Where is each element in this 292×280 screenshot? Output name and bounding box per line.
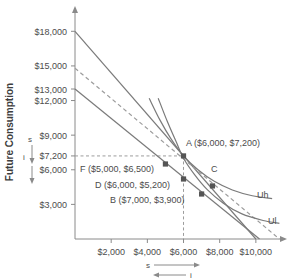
chart-canvas: Future Consumption $18,000$15,000$13,000… — [0, 0, 292, 280]
x-tick-label-2000: $2,000 — [97, 247, 125, 257]
marker-point-c — [210, 183, 215, 188]
marker-point-b — [199, 191, 204, 196]
x-tick-label-8000: $8,000 — [206, 247, 234, 257]
y-tick-label-18000: $18,000 — [34, 27, 67, 37]
y-axis-title: Future Consumption — [4, 83, 15, 181]
label-point-d: D ($6,000, $5,200) — [95, 180, 170, 190]
y-tick-label-3000: $3,000 — [39, 200, 67, 210]
x-axis-save-label: s — [146, 261, 150, 270]
consumption-savings-chart: Future Consumption $18,000$15,000$13,000… — [0, 0, 292, 280]
y-axis-save-label: s — [28, 135, 32, 144]
label-point-f: F ($5,000, $6,500) — [80, 164, 154, 174]
marker-point-a — [181, 153, 186, 158]
marker-point-d — [181, 176, 186, 181]
x-tick-label-6000: $6,000 — [170, 247, 198, 257]
label-point-a: A ($6,000, $7,200) — [186, 138, 260, 148]
y-tick-label-12000: $12,000 — [34, 96, 67, 106]
y-tick-label-15000: $15,000 — [34, 61, 67, 71]
y-axis-invest-label: i — [23, 153, 25, 162]
y-tick-label-9000: $9,000 — [39, 131, 67, 141]
label-point-b: B ($7,000, $3,900) — [110, 195, 185, 205]
x-tick-label-4000: $4,000 — [134, 247, 162, 257]
label-point-c: C — [211, 164, 218, 174]
marker-point-f — [163, 161, 168, 166]
x-axis-invest-label: i — [190, 271, 192, 280]
curve-label-ul: Ul — [268, 216, 277, 226]
y-tick-label-7200: $7,200 — [39, 151, 67, 161]
y-tick-label-6000: $6,000 — [39, 165, 67, 175]
y-tick-label-13000: $13,000 — [34, 85, 67, 95]
x-tick-label-10000: $10,000 — [240, 247, 273, 257]
curve-label-uh: Uh — [257, 190, 269, 200]
